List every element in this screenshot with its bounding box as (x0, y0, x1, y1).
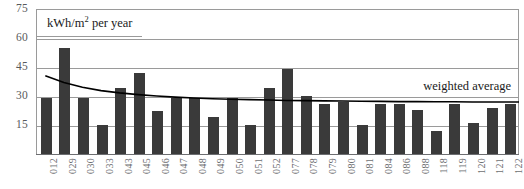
bar (282, 69, 293, 154)
x-tick-label: 045 (142, 158, 152, 174)
bar (505, 104, 516, 154)
x-tick-label: 086 (402, 158, 412, 174)
x-tick-label: 029 (68, 158, 78, 174)
bar (134, 73, 145, 154)
bar (487, 108, 498, 154)
bar (59, 48, 70, 154)
bar (245, 125, 256, 154)
bar (152, 111, 163, 154)
bar (468, 123, 479, 154)
x-tick-label: 121 (495, 158, 505, 174)
x-tick-label: 033 (105, 158, 115, 174)
y-tick-label: 45 (16, 61, 28, 73)
x-tick-label: 047 (179, 158, 189, 174)
bar (264, 88, 275, 154)
y-tick-label: 30 (16, 90, 28, 102)
x-axis: 0120290300330430450460470480490500510520… (36, 156, 519, 189)
x-tick-label: 084 (384, 158, 394, 174)
x-tick-label: 077 (291, 158, 301, 174)
x-tick-label: 046 (161, 158, 171, 174)
bar (189, 98, 200, 154)
y-tick-label: 15 (16, 119, 28, 131)
bar (208, 117, 219, 154)
bar (357, 125, 368, 154)
bar (227, 98, 238, 154)
x-tick-label: 118 (439, 158, 449, 174)
bar (412, 110, 423, 154)
y-axis: 7560453015 (0, 0, 34, 160)
bar (41, 98, 52, 154)
x-tick-label: 080 (347, 158, 357, 174)
bar (171, 98, 182, 154)
bar (431, 131, 442, 154)
x-tick-label: 051 (254, 158, 264, 174)
weighted-average-label: weighted average (417, 78, 515, 95)
unit-label: kWh/m2 per year (47, 17, 132, 30)
bar (394, 104, 405, 154)
y-tick-label: 75 (16, 3, 28, 15)
x-tick-label: 012 (49, 158, 59, 174)
x-axis-line (36, 154, 519, 155)
bar (319, 104, 330, 154)
x-tick-label: 049 (216, 158, 226, 174)
x-tick-label: 120 (477, 158, 487, 174)
x-tick-label: 081 (365, 158, 375, 174)
y-tick-label: 60 (16, 32, 28, 44)
unit-label-suffix: per year (89, 16, 133, 30)
bar (78, 98, 89, 154)
x-tick-label: 030 (86, 158, 96, 174)
x-tick-label: 078 (309, 158, 319, 174)
x-tick-label: 048 (198, 158, 208, 174)
x-tick-label: 043 (124, 158, 134, 174)
unit-label-prefix: kWh/m (47, 16, 85, 30)
x-tick-label: 052 (272, 158, 282, 174)
x-tick-label: 088 (421, 158, 431, 174)
bar (115, 88, 126, 154)
unit-legend-box: kWh/m2 per year (37, 10, 142, 37)
x-tick-label: 122 (514, 158, 524, 174)
bar (449, 104, 460, 154)
bar (301, 96, 312, 154)
x-tick-label: 119 (458, 158, 468, 174)
x-tick-label: 050 (235, 158, 245, 174)
bar (338, 102, 349, 154)
bar (97, 125, 108, 154)
x-tick-label: 079 (328, 158, 338, 174)
bar (375, 104, 386, 154)
